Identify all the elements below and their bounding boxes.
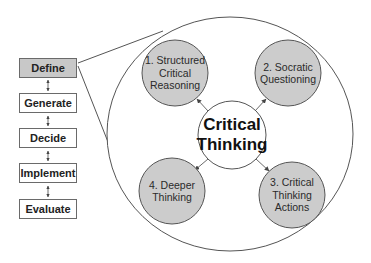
step-decide: Decide [19,128,77,148]
step-label: Generate [24,97,72,109]
step-label: Define [31,62,65,74]
center-label: Critical Thinking [198,101,266,169]
step-define: Define [19,58,77,78]
node-label-2: 2. Socratic Questioning [255,40,321,106]
step-evaluate: Evaluate [19,199,77,219]
step-generate: Generate [19,93,77,113]
step-label: Evaluate [25,203,70,215]
node-label-1: 1. Structured Critical Reasoning [142,40,208,106]
node-label-4: 4. Deeper Thinking [139,158,205,224]
step-label: Decide [30,132,66,144]
node-label-3: 3. Critical Thinking Actions [259,162,325,228]
step-implement: Implement [19,163,77,183]
step-label: Implement [20,167,75,179]
connector-line-bottom [78,66,108,142]
